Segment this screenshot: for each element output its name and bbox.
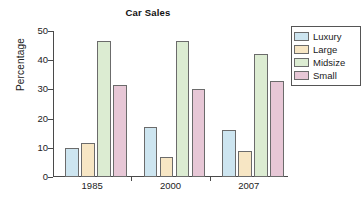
chart-title: Car Sales xyxy=(0,7,296,18)
bar-luxury-2000 xyxy=(144,127,158,177)
bar-luxury-1985 xyxy=(65,148,79,177)
x-axis-tick-labels: 198520002007 xyxy=(53,180,288,194)
bar-small-2007 xyxy=(270,81,284,177)
y-axis-tick-labels: 01020304050 xyxy=(4,31,48,177)
legend-label: Luxury xyxy=(313,31,342,42)
y-axis-ticks xyxy=(53,31,54,177)
bar-midsize-2000 xyxy=(176,41,190,177)
bar-large-2000 xyxy=(160,157,174,177)
y-axis-tick-label: 30 xyxy=(8,83,48,94)
legend: LuxuryLargeMidsizeSmall xyxy=(291,26,361,86)
plot-area xyxy=(53,31,288,177)
legend-swatch-icon xyxy=(294,71,309,80)
x-axis-tick-label: 2007 xyxy=(219,180,279,191)
bar-large-1985 xyxy=(81,143,95,177)
legend-swatch-icon xyxy=(294,45,309,54)
legend-label: Small xyxy=(313,70,337,81)
bar-midsize-2007 xyxy=(254,54,268,177)
y-axis-tick xyxy=(48,89,53,90)
legend-item-small[interactable]: Small xyxy=(294,69,357,82)
legend-item-midsize[interactable]: Midsize xyxy=(294,56,357,69)
y-axis-tick xyxy=(48,119,53,120)
y-axis-tick xyxy=(48,148,53,149)
legend-item-luxury[interactable]: Luxury xyxy=(294,30,357,43)
legend-swatch-icon xyxy=(294,32,309,41)
bar-luxury-2007 xyxy=(222,130,236,177)
bar-large-2007 xyxy=(238,151,252,177)
car-sales-bar-chart: Car Sales Percentage 01020304050 1985200… xyxy=(0,0,364,202)
x-axis-tick-label: 2000 xyxy=(141,180,201,191)
legend-swatch-icon xyxy=(294,58,309,67)
y-axis-tick-label: 20 xyxy=(8,113,48,124)
y-axis-tick-label: 10 xyxy=(8,142,48,153)
x-axis-tick-label: 1985 xyxy=(62,180,122,191)
bar-small-2000 xyxy=(192,89,206,177)
legend-label: Midsize xyxy=(313,57,345,68)
y-axis-tick-label: 50 xyxy=(8,25,48,36)
legend-item-large[interactable]: Large xyxy=(294,43,357,56)
y-axis-tick-label: 0 xyxy=(8,171,48,182)
legend-label: Large xyxy=(313,44,337,55)
y-axis-tick xyxy=(48,31,53,32)
y-axis-tick xyxy=(48,60,53,61)
y-axis-tick xyxy=(48,177,53,178)
y-axis-tick-label: 40 xyxy=(8,54,48,65)
bar-midsize-1985 xyxy=(97,41,111,177)
bar-small-1985 xyxy=(113,85,127,177)
